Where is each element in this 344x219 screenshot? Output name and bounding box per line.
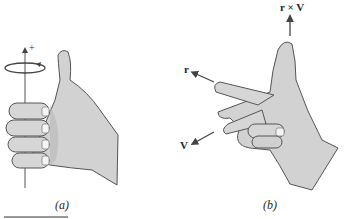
label-r-cross-v: r × V <box>280 1 304 13</box>
panel-b-hand <box>194 18 338 190</box>
diagram-canvas <box>0 0 344 219</box>
label-r: r <box>184 63 189 75</box>
arrow-r <box>194 73 214 82</box>
label-v: V <box>180 139 188 151</box>
panel-a-hand <box>4 50 118 217</box>
axis-plus-sign: + <box>29 42 35 53</box>
caption-b: (b) <box>263 198 277 213</box>
arrow-v <box>194 132 214 143</box>
caption-a: (a) <box>55 198 69 213</box>
